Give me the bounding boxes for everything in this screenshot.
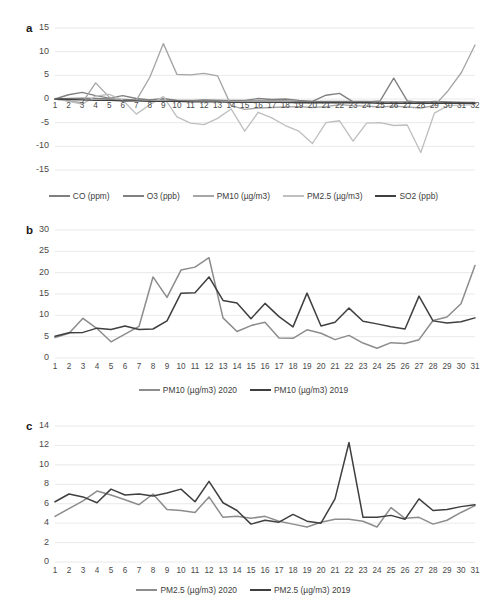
legend-item[interactable]: O3 (ppb) xyxy=(123,192,180,200)
x-axis-tick-label: 9 xyxy=(156,102,170,110)
legend-swatch-icon xyxy=(49,195,70,197)
panel-c-legend: PM2.5 (µg/m3) 2020PM2.5 (µg/m3) 2019 xyxy=(0,586,487,594)
y-axis-tick-label: 5 xyxy=(19,70,49,79)
y-axis-tick-label: 5 xyxy=(19,332,49,341)
x-axis-tick-label: 1 xyxy=(48,363,62,371)
x-axis-tick-label: 8 xyxy=(143,102,157,110)
x-axis-tick-label: 28 xyxy=(426,363,440,371)
legend-swatch-icon xyxy=(375,195,396,197)
legend-item[interactable]: CO (ppm) xyxy=(49,192,110,200)
x-axis-tick-label: 15 xyxy=(244,363,258,371)
x-axis-tick-label: 6 xyxy=(118,363,132,371)
y-axis-tick-label: 0 xyxy=(19,353,49,362)
x-axis-tick-label: 29 xyxy=(440,363,454,371)
legend-item[interactable]: PM2.5 (µg/m3) 2019 xyxy=(250,586,351,594)
y-axis-tick-label: 25 xyxy=(19,246,49,255)
x-axis-tick-label: 30 xyxy=(454,363,468,371)
panel-a-canvas xyxy=(55,28,475,170)
x-axis-tick-label: 25 xyxy=(384,567,398,575)
x-axis-tick-label: 22 xyxy=(342,363,356,371)
x-axis-tick-label: 3 xyxy=(76,567,90,575)
x-axis-tick-label: 17 xyxy=(265,102,279,110)
x-axis-tick-label: 24 xyxy=(370,567,384,575)
x-axis-tick-label: 17 xyxy=(272,567,286,575)
x-axis-tick-label: 4 xyxy=(90,363,104,371)
x-axis-tick-label: 27 xyxy=(400,102,414,110)
x-axis-tick-label: 22 xyxy=(342,567,356,575)
x-axis-tick-label: 21 xyxy=(328,363,342,371)
figure-air-quality-panels: a 151050-5-10-15123456789101112131415161… xyxy=(0,0,487,615)
y-axis-tick-label: 10 xyxy=(19,310,49,319)
x-axis-tick-label: 5 xyxy=(104,567,118,575)
legend-label: PM2.5 (µg/m3) 2019 xyxy=(274,586,351,594)
x-axis-tick-label: 14 xyxy=(230,567,244,575)
x-axis-tick-label: 18 xyxy=(286,567,300,575)
legend-swatch-icon xyxy=(139,389,160,391)
x-axis-tick-label: 16 xyxy=(258,567,272,575)
x-axis-tick-label: 20 xyxy=(314,363,328,371)
x-axis-tick-label: 20 xyxy=(305,102,319,110)
legend-item[interactable]: PM2.5 (µg/m3) 2020 xyxy=(136,586,237,594)
x-axis-tick-label: 15 xyxy=(238,102,252,110)
x-axis-tick-label: 28 xyxy=(414,102,428,110)
x-axis-tick-label: 4 xyxy=(89,102,103,110)
panel-b: b 30252015105012345678910111213141516171… xyxy=(0,212,487,408)
x-axis-tick-label: 7 xyxy=(132,567,146,575)
x-axis-tick-label: 6 xyxy=(116,102,130,110)
legend-label: PM10 (µg/m3) 2020 xyxy=(163,386,237,394)
x-axis-tick-label: 16 xyxy=(251,102,265,110)
x-axis-tick-label: 4 xyxy=(90,567,104,575)
legend-item[interactable]: SO2 (ppb) xyxy=(375,192,438,200)
panel-a-plot: 151050-5-10-1512345678910111213141516171… xyxy=(55,28,475,170)
panel-b-plot: 3025201510501234567891011121314151617181… xyxy=(55,230,475,358)
y-axis-tick-label: 14 xyxy=(19,421,49,430)
legend-item[interactable]: PM10 (µg/m3) 2019 xyxy=(250,386,348,394)
x-axis-tick-label: 29 xyxy=(427,102,441,110)
x-axis-tick-label: 17 xyxy=(272,363,286,371)
x-axis-tick-label: 22 xyxy=(333,102,347,110)
x-axis-tick-label: 25 xyxy=(384,363,398,371)
x-axis-tick-label: 20 xyxy=(314,567,328,575)
x-axis-tick-label: 9 xyxy=(160,567,174,575)
x-axis-tick-label: 15 xyxy=(244,567,258,575)
x-axis-tick-label: 1 xyxy=(48,567,62,575)
x-axis-tick-label: 26 xyxy=(387,102,401,110)
x-axis-tick-label: 3 xyxy=(76,363,90,371)
panel-c-canvas xyxy=(55,426,475,562)
y-axis-tick-label: 12 xyxy=(19,440,49,449)
x-axis-tick-label: 11 xyxy=(188,567,202,575)
x-axis-tick-label: 12 xyxy=(202,567,216,575)
legend-label: PM2.5 (µg/m3) 2020 xyxy=(160,586,237,594)
y-axis-tick-label: 30 xyxy=(19,225,49,234)
x-axis-tick-label: 19 xyxy=(292,102,306,110)
x-axis-tick-label: 7 xyxy=(132,363,146,371)
legend-label: PM10 (µg/m3) xyxy=(217,192,270,200)
legend-swatch-icon xyxy=(193,195,214,197)
x-axis-tick-label: 21 xyxy=(319,102,333,110)
x-axis-tick-label: 11 xyxy=(183,102,197,110)
x-axis-tick-label: 13 xyxy=(211,102,225,110)
x-axis-tick-label: 31 xyxy=(454,102,468,110)
x-axis-tick-label: 19 xyxy=(300,567,314,575)
legend-swatch-icon xyxy=(250,589,271,591)
x-axis-tick-label: 29 xyxy=(440,567,454,575)
x-axis-tick-label: 5 xyxy=(102,102,116,110)
x-axis-tick-label: 14 xyxy=(224,102,238,110)
y-axis-tick-label: 15 xyxy=(19,23,49,32)
y-axis-tick-label: 4 xyxy=(19,518,49,527)
legend-item[interactable]: PM10 (µg/m3) 2020 xyxy=(139,386,237,394)
legend-swatch-icon xyxy=(283,195,304,197)
legend-swatch-icon xyxy=(250,389,271,391)
legend-swatch-icon xyxy=(123,195,144,197)
legend-item[interactable]: PM2.5 (µg/m3) xyxy=(283,192,363,200)
y-axis-tick-label: -10 xyxy=(19,141,49,150)
x-axis-tick-label: 23 xyxy=(356,363,370,371)
legend-item[interactable]: PM10 (µg/m3) xyxy=(193,192,270,200)
x-axis-tick-label: 26 xyxy=(398,567,412,575)
series-line xyxy=(55,443,475,525)
x-axis-tick-label: 23 xyxy=(356,567,370,575)
x-axis-tick-label: 24 xyxy=(360,102,374,110)
y-axis-tick-label: 6 xyxy=(19,499,49,508)
x-axis-tick-label: 7 xyxy=(129,102,143,110)
x-axis-tick-label: 30 xyxy=(454,567,468,575)
